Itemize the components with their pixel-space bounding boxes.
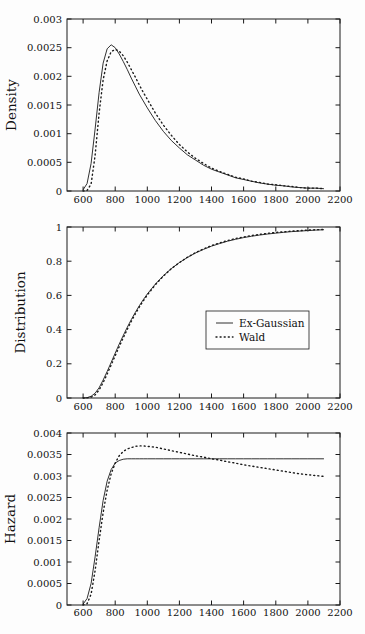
x-tick-label: 1600	[231, 607, 256, 618]
x-tick-label: 1800	[263, 401, 288, 412]
y-tick-label: 0.002	[33, 71, 62, 82]
y-tick-label: 0.003	[33, 471, 62, 482]
x-tick-label: 2000	[295, 401, 320, 412]
x-tick-label: 600	[74, 607, 93, 618]
x-tick-label: 2200	[327, 194, 352, 205]
y-tick-label: 1	[56, 222, 62, 233]
density-axis-title: Density	[3, 79, 19, 131]
x-tick-label: 2000	[295, 194, 320, 205]
y-tick-label: 0.0015	[27, 100, 62, 111]
series-line-ex-gaussian	[83, 45, 324, 190]
hazard-axis-title: Hazard	[2, 494, 18, 544]
x-tick-label: 2200	[327, 607, 352, 618]
y-tick-label: 0.0035	[27, 449, 62, 460]
x-tick-label: 800	[106, 194, 125, 205]
y-tick-label: 0.0015	[27, 535, 62, 546]
distribution-plot: 600800100012001400160018002000220000.20.…	[0, 211, 365, 422]
x-tick-label: 2000	[295, 607, 320, 618]
y-tick-label: 0.004	[33, 428, 62, 439]
y-tick-label: 0	[56, 600, 62, 611]
x-tick-label: 1000	[135, 401, 160, 412]
y-tick-label: 0.003	[33, 14, 62, 25]
legend-label-dotted: Wald	[239, 331, 265, 343]
x-tick-label: 2200	[327, 401, 352, 412]
x-tick-label: 600	[74, 401, 93, 412]
x-tick-label: 1400	[199, 401, 224, 412]
x-tick-label: 1400	[199, 194, 224, 205]
x-tick-label: 1600	[231, 401, 256, 412]
legend-label-solid: Ex-Gaussian	[239, 317, 305, 329]
y-tick-label: 0.8	[46, 256, 62, 267]
distribution-axis-title: Distribution	[12, 271, 28, 353]
x-tick-label: 800	[106, 401, 125, 412]
x-tick-label: 1000	[135, 194, 160, 205]
series-line-wald	[83, 446, 324, 605]
x-tick-label: 800	[106, 607, 125, 618]
series-line-wald	[83, 49, 324, 191]
y-tick-label: 0.2	[46, 358, 62, 369]
y-tick-label: 0.0005	[27, 578, 62, 589]
y-tick-label: 0.002	[33, 514, 62, 525]
x-tick-label: 1400	[199, 607, 224, 618]
y-tick-label: 0	[56, 393, 62, 404]
x-tick-label: 1200	[167, 607, 192, 618]
density-plot: 600800100012001400160018002000220000.000…	[0, 0, 365, 211]
x-tick-label: 1600	[231, 194, 256, 205]
y-tick-label: 0.0025	[27, 42, 62, 53]
x-tick-label: 600	[74, 194, 93, 205]
x-tick-label: 1200	[167, 194, 192, 205]
y-tick-label: 0.001	[33, 557, 62, 568]
hazard-plot: 600800100012001400160018002000220000.000…	[0, 422, 365, 634]
x-tick-label: 1000	[135, 607, 160, 618]
x-tick-label: 1800	[263, 194, 288, 205]
plot-frame	[67, 227, 340, 398]
series-line-ex-gaussian	[83, 230, 324, 398]
x-tick-label: 1800	[263, 607, 288, 618]
y-tick-label: 0	[56, 186, 62, 197]
x-tick-label: 1200	[167, 401, 192, 412]
series-line-wald	[83, 229, 324, 398]
y-tick-label: 0.4	[46, 324, 62, 335]
y-tick-label: 0.0025	[27, 492, 62, 503]
y-tick-label: 0.001	[33, 128, 62, 139]
y-tick-label: 0.6	[46, 290, 62, 301]
figure: 600800100012001400160018002000220000.000…	[0, 0, 365, 634]
y-tick-label: 0.0005	[27, 157, 62, 168]
series-line-ex-gaussian	[83, 459, 324, 604]
